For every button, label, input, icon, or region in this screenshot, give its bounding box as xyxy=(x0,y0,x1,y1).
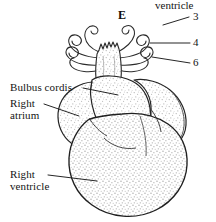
truncus-arteriosus xyxy=(96,42,122,78)
right-ventricle-shape xyxy=(69,113,187,216)
arch-number-4: 4 xyxy=(193,36,199,48)
label-right-ventricle-line1: Right xyxy=(10,169,49,181)
embryonic-heart-figure: ventricle E 3 4 6 Bulbus cordis Right at… xyxy=(0,0,216,222)
label-right-atrium-line2: atrium xyxy=(10,110,39,122)
label-bulbus-cordis: Bulbus cordis xyxy=(10,82,72,94)
arch-number-3: 3 xyxy=(193,10,199,22)
label-right-ventricle-line2: ventricle xyxy=(10,181,49,193)
label-right-ventricle: Right ventricle xyxy=(10,169,49,192)
leader-arch-6 xyxy=(152,57,190,63)
leader-arch-3 xyxy=(163,17,189,25)
label-right-atrium: Right atrium xyxy=(10,98,39,121)
left-arch-arteries xyxy=(66,26,100,72)
panel-letter-e: E xyxy=(118,8,126,23)
top-partial-label: ventricle xyxy=(155,0,193,11)
label-right-atrium-line1: Right xyxy=(10,98,39,110)
right-arch-arteries xyxy=(118,26,153,72)
arch-number-6: 6 xyxy=(193,56,199,68)
